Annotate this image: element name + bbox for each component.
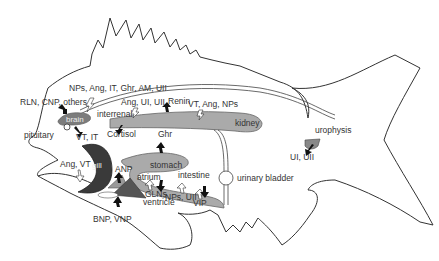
output-arrow-icon [156,142,165,153]
urophysis-label: urophysis [315,125,351,135]
mouth-line [38,173,95,185]
pituitary-label: pituitary [24,130,55,140]
vip-label: VIP [193,198,207,208]
urophysis [305,139,320,149]
brain-input-label: NPs, Ang, IT, Ghr, AM, UII [69,83,167,93]
urophysis-output-label: UI, UII [290,152,314,162]
input-arrow-icon [86,98,94,112]
stomach-label: stomach [150,160,182,170]
intestine-input-label: NPs, UII [165,192,197,202]
gill-input-label: Ang, VT [60,159,91,169]
ghr-label: Ghr [158,129,172,139]
glns-label: GLNs [145,189,167,199]
pituitary [64,124,70,130]
brain-other-label: RLN, CNP, others [20,97,87,107]
interrenal-label: interrenal [97,109,133,119]
bnp-vnp-label: BNP, VNP [93,214,132,224]
intestine-label: intestine [178,170,210,180]
kidney-label: kidney [235,118,260,128]
kidney-input-label: VT, Ang, NPs [188,99,238,109]
atrium-label: atrium [137,172,161,182]
anp-label: ANP [115,164,133,174]
urinary-bladder-label: urinary bladder [237,173,294,183]
brain-label: brain [66,115,84,124]
input-arrow-icon [76,170,84,182]
urinary-bladder [219,171,233,185]
gill-label: gill [92,161,102,170]
interrenal-input-label: Ang, UI, UII [121,97,165,107]
fish-diagram: kidney urinary bladder brain gill stomac… [0,0,439,261]
